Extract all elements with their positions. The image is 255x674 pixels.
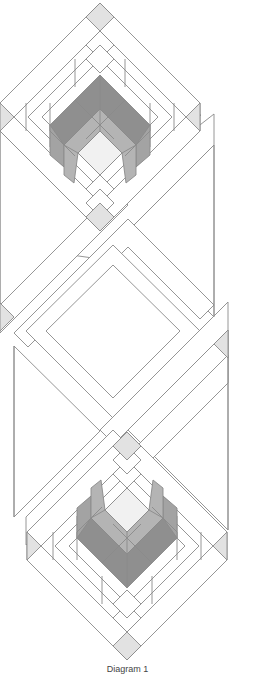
diagram-caption: Diagram 1 (0, 664, 255, 674)
